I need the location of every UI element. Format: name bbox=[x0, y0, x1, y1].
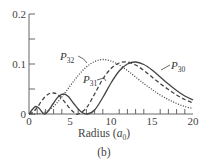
x-tick-label: 20 bbox=[188, 115, 200, 127]
figure-caption: (b) bbox=[0, 146, 208, 158]
x-tick-label: 5 bbox=[67, 115, 73, 127]
label-p30: P30 bbox=[170, 59, 185, 74]
y-tick-label: 0.2 bbox=[12, 8, 26, 20]
x-tick-label: 0 bbox=[26, 115, 32, 127]
leader-line-p32 bbox=[78, 56, 87, 63]
y-tick-label: 0.1 bbox=[12, 58, 26, 70]
x-tick-label: 15 bbox=[147, 115, 159, 127]
leader-line-p30 bbox=[161, 65, 170, 70]
curves bbox=[29, 59, 193, 114]
label-p32: P32 bbox=[59, 50, 74, 65]
leader-line-p31 bbox=[97, 78, 106, 81]
label-p31: P31 bbox=[82, 73, 97, 88]
x-tick-label: 10 bbox=[106, 115, 118, 127]
x-axis-label: Radius (a0) bbox=[0, 127, 208, 142]
